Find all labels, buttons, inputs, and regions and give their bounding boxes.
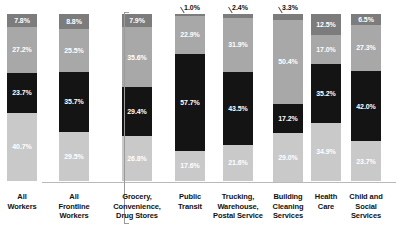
x-axis-label-line: Child and <box>335 192 397 202</box>
segment-value-label: 6.5% <box>358 16 374 23</box>
segment-value-label: 35.2% <box>316 90 335 97</box>
segment-value-label: 23.7% <box>12 89 31 96</box>
callout-label: 3.3% <box>282 4 298 11</box>
bar-segment-black[interactable]: 35.7% <box>59 72 89 132</box>
segment-value-label: 26.8% <box>127 155 146 162</box>
stacked-bar: 8.8%25.5%35.7%29.5% <box>59 14 89 182</box>
segment-value-label: 23.7% <box>356 158 375 165</box>
bar-column[interactable]: 6.5%27.3%42.0%23.7% <box>351 14 381 182</box>
segment-value-label: 29.0% <box>278 154 297 161</box>
bar-segment-white[interactable]: 23.7% <box>351 141 381 181</box>
segment-value-label: 17.2% <box>278 115 297 122</box>
segment-value-label: 40.7% <box>12 143 31 150</box>
x-axis-label: Child andSocialServices <box>335 192 397 221</box>
bar-segment-white[interactable]: 29.0% <box>273 133 303 182</box>
bar-segment-asian[interactable]: 8.8% <box>59 14 89 29</box>
segment-value-label: 31.9% <box>228 41 247 48</box>
bar-segment-white[interactable]: 34.9% <box>311 123 341 182</box>
segment-value-label: 21.6% <box>228 159 247 166</box>
stacked-bar: 6.5%27.3%42.0%23.7% <box>351 14 381 182</box>
x-axis-label: AllFrontlineWorkers <box>43 192 105 221</box>
segment-value-label: 34.9% <box>316 148 335 155</box>
bar-segment-black[interactable]: 57.7% <box>175 54 205 151</box>
segment-value-label: 42.0% <box>356 103 375 110</box>
segment-value-label: 12.5% <box>316 21 335 28</box>
bar-column[interactable]: 7.8%27.2%23.7%40.7% <box>7 14 37 182</box>
callout-label: 1.0% <box>184 4 200 11</box>
segment-value-label: 35.6% <box>127 54 146 61</box>
bar-segment-asian[interactable]: 12.5% <box>311 14 341 35</box>
x-axis-label-line: Drug Stores <box>106 211 168 221</box>
bar-segment-latinx[interactable]: 27.2% <box>7 27 37 73</box>
segment-value-label: 27.3% <box>356 44 375 51</box>
bar-column[interactable]: 12.5%17.0%35.2%34.9% <box>311 14 341 182</box>
segment-value-label: 27.2% <box>12 46 31 53</box>
stacked-bar-chart: AsianLatinxBlackWhite 7.8%27.2%23.7%40.7… <box>0 0 402 244</box>
bar-segment-black[interactable]: 23.7% <box>7 73 37 113</box>
segment-value-label: 29.4% <box>127 108 146 115</box>
segment-value-label: 22.9% <box>180 31 199 38</box>
bar-segment-asian[interactable]: 7.8% <box>7 14 37 27</box>
stacked-bar: 2.4%31.9%43.5%21.6% <box>223 14 253 182</box>
bar-segment-black[interactable]: 43.5% <box>223 72 253 145</box>
callout-label: 2.4% <box>232 4 248 11</box>
stacked-bar: 3.3%50.4%17.2%29.0% <box>273 14 303 182</box>
stacked-bar: 12.5%17.0%35.2%34.9% <box>311 14 341 182</box>
bar-segment-latinx[interactable]: 25.5% <box>59 29 89 72</box>
bar-column[interactable]: 3.3%50.4%17.2%29.0% <box>273 14 303 182</box>
bar-column[interactable]: 8.8%25.5%35.7%29.5% <box>59 14 89 182</box>
x-axis-label-line: Social <box>335 202 397 212</box>
x-axis-label-line: Services <box>257 211 319 221</box>
stacked-bar: 7.8%27.2%23.7%40.7% <box>7 14 37 182</box>
bar-segment-white[interactable]: 21.6% <box>223 145 253 181</box>
bar-segment-black[interactable]: 17.2% <box>273 104 303 133</box>
bar-segment-white[interactable]: 40.7% <box>7 113 37 181</box>
segment-value-label: 25.5% <box>64 47 83 54</box>
x-axis-label-line: Services <box>335 211 397 221</box>
segment-value-label: 43.5% <box>228 105 247 112</box>
bar-segment-asian[interactable]: 6.5% <box>351 14 381 25</box>
segment-value-label: 17.6% <box>180 162 199 169</box>
bar-segment-latinx[interactable]: 22.9% <box>175 16 205 54</box>
segment-value-label: 50.4% <box>278 58 297 65</box>
segment-value-label: 8.8% <box>66 18 82 25</box>
x-axis-label-line: Frontline <box>43 202 105 212</box>
bar-column[interactable]: 1.0%22.9%57.7%17.6% <box>175 14 205 182</box>
segment-value-label: 57.7% <box>180 99 199 106</box>
x-axis-label-line: Workers <box>43 211 105 221</box>
segment-value-label: 7.9% <box>129 17 145 24</box>
bar-segment-latinx[interactable]: 17.0% <box>311 35 341 64</box>
segment-value-label: 29.5% <box>64 153 83 160</box>
bar-column[interactable]: 2.4%31.9%43.5%21.6% <box>223 14 253 182</box>
segment-value-label: 17.0% <box>316 46 335 53</box>
stacked-bar: 1.0%22.9%57.7%17.6% <box>175 14 205 182</box>
bar-segment-latinx[interactable]: 31.9% <box>223 18 253 72</box>
bar-segment-latinx[interactable]: 27.3% <box>351 25 381 71</box>
axis-baseline <box>42 182 396 183</box>
segment-value-label: 7.8% <box>14 17 30 24</box>
segment-value-label: 35.7% <box>64 98 83 105</box>
bar-segment-white[interactable]: 29.5% <box>59 132 89 182</box>
plot-area: 7.8%27.2%23.7%40.7%8.8%25.5%35.7%29.5%7.… <box>48 14 394 182</box>
bar-segment-black[interactable]: 35.2% <box>311 64 341 123</box>
x-axis-label-line: All <box>43 192 105 202</box>
bar-segment-black[interactable]: 42.0% <box>351 71 381 142</box>
bar-segment-white[interactable]: 17.6% <box>175 151 205 181</box>
bar-segment-latinx[interactable]: 50.4% <box>273 20 303 105</box>
